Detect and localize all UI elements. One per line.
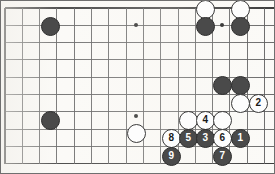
move-number-label: 9 xyxy=(168,151,173,161)
move-6-white: 6 xyxy=(213,129,232,148)
white-stone-center-lower xyxy=(127,124,146,143)
move-8-white: 8 xyxy=(162,129,181,148)
white-stone-right-c xyxy=(231,94,250,113)
black-stone-right-b xyxy=(231,76,250,95)
black-stone-upper-left xyxy=(41,17,60,36)
move-number-label: 1 xyxy=(237,133,242,143)
move-2-white: 2 xyxy=(249,94,268,113)
move-number-label: 2 xyxy=(255,98,260,108)
move-9-black: 9 xyxy=(162,147,181,166)
white-stone-above-six xyxy=(213,111,232,130)
move-7-black: 7 xyxy=(213,147,232,166)
move-4-white: 4 xyxy=(196,111,215,130)
move-number-label: 8 xyxy=(168,133,173,143)
move-number-label: 5 xyxy=(185,133,190,143)
go-board-diagram: 248536197 xyxy=(0,0,275,174)
move-number-label: 6 xyxy=(219,133,224,143)
move-5-black: 5 xyxy=(179,129,198,148)
white-stone-top-right-a xyxy=(196,0,215,19)
move-number-label: 4 xyxy=(202,115,207,125)
black-stone-top-right-a xyxy=(196,17,215,36)
move-3-black: 3 xyxy=(196,129,215,148)
black-stone-top-right-b xyxy=(231,17,250,36)
white-stone-above-five xyxy=(179,111,198,130)
move-1-black: 1 xyxy=(231,129,250,148)
white-stone-top-right-b xyxy=(231,0,250,19)
black-stone-right-a xyxy=(213,76,232,95)
move-number-label: 7 xyxy=(219,151,224,161)
move-number-label: 3 xyxy=(202,133,207,143)
black-stone-left-lower xyxy=(41,111,60,130)
